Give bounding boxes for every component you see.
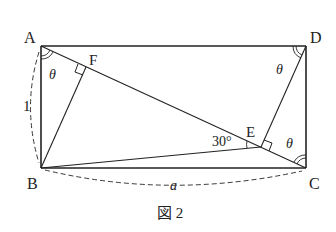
angle-label-theta-A: θ xyxy=(49,67,56,82)
angle-arc-A-1 xyxy=(41,50,50,56)
angle-label-theta-D: θ xyxy=(276,62,283,77)
geometry-diagram: A D B C F E θ θ θ 30° 1 a 図 2 xyxy=(0,0,336,232)
right-angle-mark-F xyxy=(75,64,83,75)
vertex-label-F: F xyxy=(89,52,97,68)
vertex-label-C: C xyxy=(309,175,320,192)
segment-BF xyxy=(41,67,86,168)
angle-arc-D-1 xyxy=(296,46,302,55)
angle-arc-D-2 xyxy=(293,46,301,58)
vertex-label-B: B xyxy=(27,175,38,192)
diagonal-AC xyxy=(41,46,306,168)
dashed-arc-AB xyxy=(31,52,40,163)
figure-caption: 図 2 xyxy=(157,205,183,221)
angle-label-theta-C: θ xyxy=(286,136,293,151)
vertex-label-E: E xyxy=(246,124,255,140)
angle-label-30: 30° xyxy=(212,134,232,149)
length-label-BC: a xyxy=(170,178,177,193)
angle-arc-C-1 xyxy=(297,158,306,164)
vertex-label-D: D xyxy=(310,29,322,46)
segment-BE xyxy=(41,147,261,168)
segment-DE xyxy=(261,46,306,147)
vertex-label-A: A xyxy=(24,29,36,46)
length-label-AB: 1 xyxy=(23,98,31,114)
